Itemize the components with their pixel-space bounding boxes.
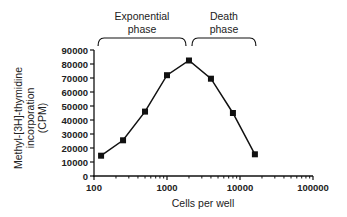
y-tick-label: 80000 (62, 59, 88, 70)
y-tick-label: 90000 (62, 45, 88, 56)
data-series (98, 58, 258, 159)
phase-bracket (98, 38, 186, 46)
data-point-marker (230, 110, 236, 116)
line-chart: 0100002000030000400005000060000700008000… (0, 0, 347, 217)
y-tick-label: 60000 (62, 87, 88, 98)
data-point-marker (208, 76, 214, 82)
x-axis-title: Cells per well (172, 197, 234, 209)
data-point-marker (186, 58, 192, 64)
data-point-marker (120, 137, 126, 143)
data-point-marker (142, 109, 148, 115)
phase-label: Exponential (115, 10, 170, 22)
data-point-marker (164, 72, 170, 78)
phase-bracket (192, 38, 256, 46)
x-tick-label: 1000 (156, 182, 177, 193)
x-tick-label: 10000 (227, 182, 253, 193)
y-axis-title: Methyl-[3H]-thymidineincorporation(CPM) (12, 67, 48, 169)
y-tick-label: 70000 (62, 73, 88, 84)
y-axis-title-line: incorporation (24, 87, 36, 148)
x-tick-label: 100 (86, 182, 102, 193)
data-point-marker (98, 153, 104, 159)
y-tick-label: 40000 (62, 115, 88, 126)
phase-label: Death (210, 10, 238, 22)
y-axis-title-line: Methyl-[3H]-thymidine (12, 67, 24, 169)
y-tick-label: 20000 (62, 143, 88, 154)
data-point-marker (252, 151, 258, 157)
phase-label: phase (128, 23, 157, 35)
y-axis-title-line: (CPM) (36, 103, 48, 133)
y-tick-label: 10000 (62, 157, 88, 168)
y-tick-label: 30000 (62, 129, 88, 140)
y-tick-label: 50000 (62, 101, 88, 112)
y-tick-label: 0 (83, 171, 88, 182)
phase-label: phase (210, 23, 239, 35)
phase-annotations: ExponentialphaseDeathphase (98, 10, 256, 46)
x-tick-label: 100000 (297, 182, 329, 193)
y-axis: 0100002000030000400005000060000700008000… (62, 45, 94, 182)
x-axis: 100100010000100000 (86, 176, 329, 193)
